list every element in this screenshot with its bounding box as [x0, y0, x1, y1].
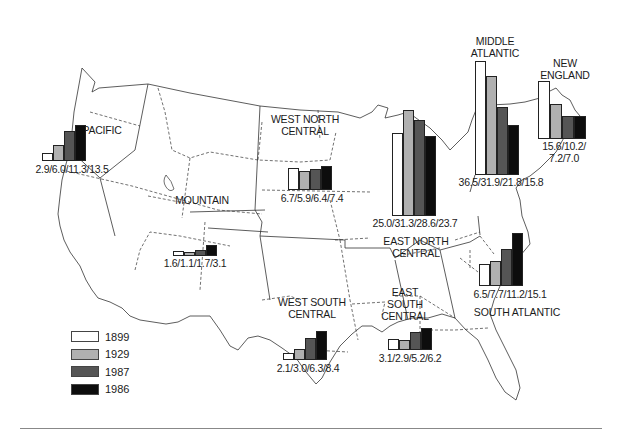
region-label-line-1: EAST	[375, 286, 435, 298]
bar-esc-1899	[388, 339, 399, 350]
value-label-line-1: 15.6/10.2/	[530, 140, 598, 152]
bar-sa-1929	[490, 261, 501, 286]
bar-sa-1899	[479, 264, 490, 286]
bar-ne-1986	[574, 116, 586, 139]
region-label-west-north-central: WEST NORTH CENTRAL	[255, 113, 355, 137]
bar-ma-1899	[475, 61, 486, 175]
bar-mountain-1929	[184, 252, 195, 256]
region-label-line-2: CENTRAL	[262, 308, 362, 320]
bar-group-east-north-central	[392, 100, 436, 216]
bar-esc-1987	[410, 332, 421, 350]
value-label-west-north-central: 6.7/5.9/6.4/7.4	[272, 192, 352, 204]
legend-label: 1899	[105, 331, 129, 343]
value-label-south-atlantic: 6.5/7.7/11.2/15.1	[462, 288, 558, 300]
legend-swatch	[71, 384, 99, 395]
legend-label: 1986	[105, 383, 129, 395]
legend-swatch	[71, 331, 99, 342]
region-label-mountain: MOUNTAIN	[162, 194, 242, 206]
bar-ne-1899	[538, 81, 550, 139]
bar-ne-1929	[550, 104, 562, 139]
bottom-divider	[20, 428, 602, 429]
bar-mountain-1899	[173, 251, 184, 256]
value-label-east-north-central: 25.0/31.3/28.6/23.7	[360, 217, 470, 229]
bar-group-south-atlantic	[479, 232, 523, 286]
bar-wsc-1987	[305, 338, 316, 360]
bar-ne-1987	[562, 116, 574, 139]
value-label-line-2: 7.2/7.0	[530, 152, 598, 164]
bar-pacific-1986	[75, 125, 86, 161]
bar-ma-1986	[508, 125, 519, 175]
region-label-line-1: NEW	[530, 57, 600, 69]
bar-mountain-1987	[195, 250, 206, 256]
region-label-east-south-central: EAST SOUTH CENTRAL	[375, 286, 435, 322]
bar-group-pacific	[42, 100, 86, 161]
bar-esc-1929	[399, 340, 410, 350]
bar-group-new-england	[538, 80, 586, 139]
region-label-west-south-central: WEST SOUTH CENTRAL	[262, 296, 362, 320]
legend-label: 1929	[105, 348, 129, 360]
bar-wsc-1899	[283, 353, 294, 360]
salt-lake-shape	[164, 175, 174, 191]
legend: 1899 1929 1987 1986	[71, 328, 129, 398]
legend-item-1986: 1986	[71, 381, 129, 399]
bar-group-mountain	[173, 220, 217, 256]
bar-mountain-1986	[206, 245, 217, 256]
region-label-line-2: CENTRAL	[366, 247, 466, 259]
bar-enc-1986	[425, 136, 436, 216]
value-label-mountain: 1.6/1.1/1.7/3.1	[150, 257, 240, 269]
region-label-middle-atlantic: MIDDLE ATLANTIC	[455, 35, 535, 59]
bar-ma-1929	[486, 76, 497, 175]
legend-item-1929: 1929	[71, 346, 129, 364]
bar-wsc-1986	[316, 331, 327, 360]
value-label-new-england: 15.6/10.2/ 7.2/7.0	[530, 140, 598, 164]
region-label-line-2: ATLANTIC	[455, 47, 535, 59]
bar-wnc-1986	[321, 166, 332, 190]
region-label-line-3: CENTRAL	[375, 310, 435, 322]
legend-label: 1987	[105, 366, 129, 378]
value-label-west-south-central: 2.1/3.0/6.3/8.4	[268, 362, 348, 374]
legend-item-1987: 1987	[71, 363, 129, 381]
bar-enc-1899	[392, 133, 403, 216]
region-label-line-1: MIDDLE	[455, 35, 535, 47]
bar-group-east-south-central	[388, 326, 432, 350]
bar-wnc-1899	[288, 168, 299, 190]
region-label-east-north-central: EAST NORTH CENTRAL	[366, 235, 466, 259]
region-label-line-1: WEST NORTH	[255, 113, 355, 125]
bar-enc-1987	[414, 120, 425, 216]
value-label-middle-atlantic: 36.5/31.9/21.8/15.8	[446, 176, 556, 188]
bar-wnc-1987	[310, 169, 321, 190]
bar-sa-1987	[501, 249, 512, 286]
bar-sa-1986	[512, 233, 523, 286]
bar-wsc-1929	[294, 349, 305, 360]
bar-pacific-1987	[64, 131, 75, 161]
bar-pacific-1929	[53, 145, 64, 161]
bar-group-middle-atlantic	[475, 60, 519, 175]
bar-ma-1987	[497, 107, 508, 175]
bar-enc-1929	[403, 110, 414, 216]
legend-item-1899: 1899	[71, 328, 129, 346]
region-label-new-england: NEW ENGLAND	[530, 57, 600, 81]
region-label-line-2: CENTRAL	[255, 125, 355, 137]
bar-wnc-1929	[299, 171, 310, 190]
legend-swatch	[71, 349, 99, 360]
region-label-line-1: EAST NORTH	[366, 235, 466, 247]
bar-esc-1986	[421, 328, 432, 350]
region-label-line-1: WEST SOUTH	[262, 296, 362, 308]
bar-pacific-1899	[42, 153, 53, 161]
region-label-line-2: SOUTH	[375, 298, 435, 310]
value-label-pacific: 2.9/6.0/11.3/13.5	[22, 163, 122, 175]
value-label-east-south-central: 3.1/2.9/5.2/6.2	[370, 352, 450, 364]
legend-swatch	[71, 366, 99, 377]
bar-group-west-south-central	[283, 330, 327, 360]
region-label-south-atlantic: SOUTH ATLANTIC	[462, 306, 572, 318]
bar-group-west-north-central	[288, 160, 332, 190]
